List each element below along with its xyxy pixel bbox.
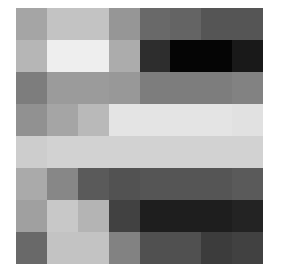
heatmap-cell: [232, 104, 263, 136]
heatmap-cell: [232, 168, 263, 200]
heatmap-cell: [47, 104, 78, 136]
heatmap-cell: [109, 232, 140, 264]
heatmap-cell: [170, 136, 201, 168]
heatmap-cell: [16, 40, 47, 72]
heatmap-cell: [47, 40, 78, 72]
heatmap-cell: [201, 72, 232, 104]
heatmap-cell: [170, 8, 201, 40]
heatmap-cell: [16, 72, 47, 104]
heatmap-cell: [109, 168, 140, 200]
heatmap-cell: [201, 200, 232, 232]
heatmap-cell: [170, 232, 201, 264]
heatmap-cell: [16, 168, 47, 200]
heatmap-cell: [78, 200, 109, 232]
heatmap-cell: [78, 8, 109, 40]
heatmap-cell: [78, 168, 109, 200]
heatmap-cell: [140, 136, 171, 168]
heatmap-cell: [109, 104, 140, 136]
heatmap-cell: [170, 168, 201, 200]
heatmap-cell: [109, 136, 140, 168]
heatmap-cell: [140, 104, 171, 136]
heatmap-cell: [232, 40, 263, 72]
heatmap-cell: [47, 136, 78, 168]
heatmap-cell: [140, 232, 171, 264]
heatmap-cell: [78, 104, 109, 136]
heatmap-cell: [47, 72, 78, 104]
heatmap-cell: [16, 8, 47, 40]
heatmap-cell: [201, 232, 232, 264]
heatmap-cell: [140, 168, 171, 200]
heatmap-cell: [78, 72, 109, 104]
heatmap-cell: [47, 8, 78, 40]
heatmap-cell: [201, 8, 232, 40]
heatmap-cell: [16, 232, 47, 264]
heatmap-cell: [170, 40, 201, 72]
heatmap-cell: [232, 8, 263, 40]
heatmap-cell: [78, 136, 109, 168]
heatmap-cell: [16, 104, 47, 136]
heatmap-cell: [170, 200, 201, 232]
heatmap-cell: [170, 104, 201, 136]
heatmap-cell: [201, 136, 232, 168]
heatmap-cell: [78, 232, 109, 264]
heatmap-cell: [47, 168, 78, 200]
heatmap-cell: [78, 40, 109, 72]
heatmap-cell: [232, 136, 263, 168]
grayscale-heatmap: [16, 8, 263, 264]
heatmap-cell: [47, 200, 78, 232]
heatmap-cell: [109, 40, 140, 72]
heatmap-cell: [140, 72, 171, 104]
heatmap-cell: [16, 136, 47, 168]
heatmap-cell: [109, 200, 140, 232]
heatmap-cell: [232, 72, 263, 104]
heatmap-cell: [201, 40, 232, 72]
heatmap-cell: [232, 232, 263, 264]
heatmap-cell: [140, 8, 171, 40]
heatmap-cell: [232, 200, 263, 232]
heatmap-cell: [109, 8, 140, 40]
heatmap-cell: [140, 40, 171, 72]
heatmap-cell: [201, 104, 232, 136]
heatmap-cell: [201, 168, 232, 200]
heatmap-cell: [140, 200, 171, 232]
heatmap-cell: [170, 72, 201, 104]
heatmap-cell: [47, 232, 78, 264]
heatmap-cell: [109, 72, 140, 104]
heatmap-cell: [16, 200, 47, 232]
